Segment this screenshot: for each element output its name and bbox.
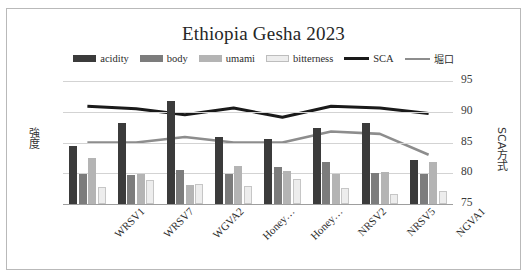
bar-body[interactable] xyxy=(225,174,233,204)
legend-item-label: acidity xyxy=(100,53,129,64)
x-axis-label: Honey… xyxy=(308,205,345,242)
legend-item-label: SCA xyxy=(373,53,393,64)
legend-item-SCA[interactable]: SCA xyxy=(344,53,393,64)
legend-item-label: 堀口 xyxy=(434,51,454,66)
legend-item-label: bitterness xyxy=(293,53,333,64)
chart-legend: aciditybodyumamibitternessSCA堀口 xyxy=(7,51,520,66)
y-axis-right-tick: 85 xyxy=(461,135,501,147)
bar-group xyxy=(209,81,258,204)
bar-umami[interactable] xyxy=(429,162,437,204)
top-cutoff-text xyxy=(0,0,528,7)
x-axis-label: WRSV1 xyxy=(112,205,147,240)
x-axis-label: NRSV2 xyxy=(355,205,388,238)
bar-acidity[interactable] xyxy=(362,123,370,204)
bar-acidity[interactable] xyxy=(215,137,223,204)
bar-body[interactable] xyxy=(176,170,184,204)
legend-item-bitterness[interactable]: bitterness xyxy=(266,53,333,64)
legend-line-swatch xyxy=(344,57,369,60)
legend-color-swatch xyxy=(140,55,163,62)
x-axis-label: Honey… xyxy=(259,205,296,242)
bar-body[interactable] xyxy=(371,173,379,204)
x-axis-label: NRSV5 xyxy=(404,205,437,238)
bar-acidity[interactable] xyxy=(410,160,418,204)
bar-body[interactable] xyxy=(420,174,428,204)
bar-bitterness[interactable] xyxy=(439,191,447,204)
bar-umami[interactable] xyxy=(332,174,340,204)
x-axis-label: WRSV7 xyxy=(161,205,196,240)
bar-group xyxy=(356,81,405,204)
legend-color-swatch xyxy=(73,55,96,62)
legend-item-acidity[interactable]: acidity xyxy=(73,53,129,64)
legend-item-label: umami xyxy=(226,53,255,64)
plot-area: 0750.5801851.590295 xyxy=(63,81,453,204)
bar-bitterness[interactable] xyxy=(146,180,154,204)
x-axis-category-labels: WRSV1WRSV7WGVA2Honey…Honey…NRSV2NRSV5NGV… xyxy=(63,205,453,278)
legend-item-堀口[interactable]: 堀口 xyxy=(405,51,454,66)
bar-bitterness[interactable] xyxy=(293,179,301,204)
y-axis-right-tick: 80 xyxy=(461,165,501,177)
legend-line-swatch xyxy=(405,58,430,60)
bar-umami[interactable] xyxy=(283,171,291,204)
bar-bitterness[interactable] xyxy=(98,187,106,204)
bar-group xyxy=(404,81,453,204)
bar-umami[interactable] xyxy=(88,158,96,204)
y-axis-left-title: 強度 xyxy=(25,127,41,149)
legend-color-swatch xyxy=(199,55,222,62)
bar-bitterness[interactable] xyxy=(341,188,349,204)
y-axis-right-tick: 90 xyxy=(461,104,501,116)
legend-item-umami[interactable]: umami xyxy=(199,53,255,64)
y-axis-right-tick: 95 xyxy=(461,73,501,85)
bar-group xyxy=(63,81,112,204)
x-axis-label: NGVA1 xyxy=(453,205,487,239)
bar-acidity[interactable] xyxy=(167,101,175,204)
chart-title: Ethiopia Gesha 2023 xyxy=(7,23,520,45)
bar-umami[interactable] xyxy=(186,185,194,204)
bar-bitterness[interactable] xyxy=(390,194,398,204)
bar-bitterness[interactable] xyxy=(244,186,252,204)
bar-acidity[interactable] xyxy=(313,128,321,204)
bar-body[interactable] xyxy=(322,162,330,204)
legend-color-swatch xyxy=(266,55,289,62)
bar-body[interactable] xyxy=(79,174,87,204)
bar-group xyxy=(161,81,210,204)
bar-body[interactable] xyxy=(127,175,135,204)
bar-group xyxy=(112,81,161,204)
bar-body[interactable] xyxy=(274,167,282,204)
chart-frame: Ethiopia Gesha 2023 aciditybodyumamibitt… xyxy=(6,8,521,270)
bar-umami[interactable] xyxy=(234,166,242,204)
bar-acidity[interactable] xyxy=(69,146,77,204)
bar-group xyxy=(258,81,307,204)
bar-acidity[interactable] xyxy=(264,139,272,204)
bar-acidity[interactable] xyxy=(118,123,126,204)
chart-screenshot: Ethiopia Gesha 2023 aciditybodyumamibitt… xyxy=(0,0,528,278)
bar-umami[interactable] xyxy=(381,172,389,204)
bar-umami[interactable] xyxy=(137,174,145,204)
legend-item-body[interactable]: body xyxy=(140,53,188,64)
bar-bitterness[interactable] xyxy=(195,184,203,204)
legend-item-label: body xyxy=(167,53,188,64)
x-axis-label: WGVA2 xyxy=(210,205,246,241)
bar-group xyxy=(307,81,356,204)
